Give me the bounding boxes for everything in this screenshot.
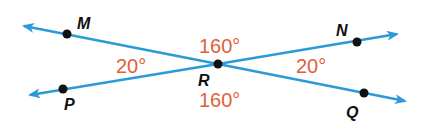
point-R	[214, 60, 223, 69]
intersecting-lines-diagram: M N P Q R 20° 160° 20° 160°	[0, 0, 429, 130]
point-M	[63, 30, 72, 39]
angle-label-top: 160°	[199, 35, 240, 57]
label-M: M	[77, 15, 91, 32]
diagram-canvas: M N P Q R 20° 160° 20° 160°	[0, 0, 429, 130]
point-N	[353, 38, 362, 47]
point-Q	[360, 89, 369, 98]
label-Q: Q	[346, 104, 359, 121]
angle-label-right: 20°	[296, 55, 326, 77]
label-R: R	[198, 72, 210, 89]
angle-label-bottom: 160°	[199, 89, 240, 111]
angle-label-left: 20°	[116, 55, 146, 77]
point-P	[59, 85, 68, 94]
label-N: N	[336, 22, 348, 39]
label-P: P	[64, 96, 75, 113]
